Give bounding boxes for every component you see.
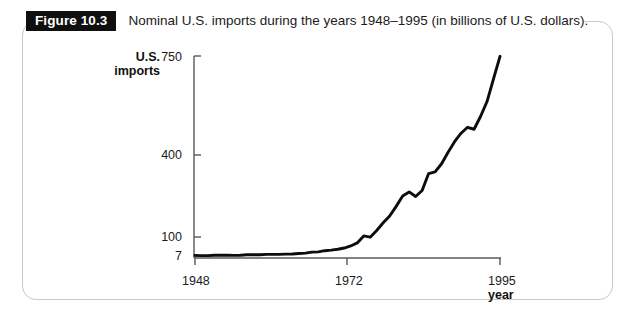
y-tick-label-750: 750 <box>136 50 182 64</box>
y-tick-label-400: 400 <box>136 148 182 162</box>
x-tick-label-1972: 1972 <box>335 274 363 288</box>
x-tick-label-1948: 1948 <box>182 274 210 288</box>
figure-number-badge: Figure 10.3 <box>26 11 116 32</box>
figure-caption-text: Nominal U.S. imports during the years 19… <box>128 14 588 28</box>
y-tick-label-100: 100 <box>136 230 182 244</box>
x-axis-title: year <box>488 288 514 302</box>
y-tick-label-7: 7 <box>136 249 182 263</box>
y-axis-title-line2: imports <box>114 64 160 78</box>
figure-caption-row: Figure 10.3 Nominal U.S. imports during … <box>26 10 588 32</box>
figure-container: Figure 10.3 Nominal U.S. imports during … <box>0 0 633 334</box>
x-tick-label-1995: 1995 <box>488 274 516 288</box>
